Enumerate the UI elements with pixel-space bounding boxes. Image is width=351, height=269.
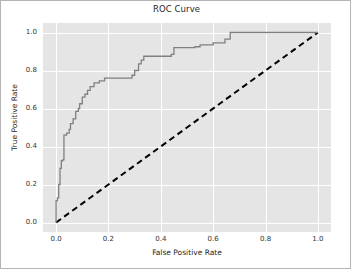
y-tick-label: 1.0 <box>11 28 37 36</box>
x-axis-label: False Positive Rate <box>43 248 331 257</box>
x-tick-label: 0.2 <box>93 235 123 243</box>
chance-diagonal-line <box>56 33 318 223</box>
page-title: ROC Curve <box>1 4 351 14</box>
x-tick-label: 0.4 <box>146 235 176 243</box>
plot-svg <box>43 23 331 232</box>
x-tick-label: 0.0 <box>41 235 71 243</box>
x-tick-label: 0.8 <box>251 235 281 243</box>
roc-curve-figure: ROC Curve 0.00.20.40.60.81.0 0.00.20.40.… <box>0 0 351 269</box>
x-tick-label: 0.6 <box>198 235 228 243</box>
plot-area <box>43 23 331 232</box>
y-tick-label: 0.0 <box>11 218 37 226</box>
y-tick-label: 0.2 <box>11 180 37 188</box>
y-axis-label: True Positive Rate <box>10 58 19 178</box>
x-tick-label: 1.0 <box>303 235 333 243</box>
